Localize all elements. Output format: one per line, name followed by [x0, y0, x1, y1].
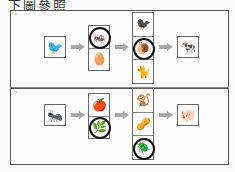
arrow-right-icon: [159, 111, 173, 119]
apple-glyph: 🍎: [92, 98, 107, 112]
cow-glyph: 🐄: [180, 40, 196, 55]
arrow-right-icon: [159, 43, 173, 51]
plant-glyph: 🌿: [92, 120, 107, 134]
grasshopper-icon: 🦗: [89, 26, 109, 49]
snail-icon: 🐌: [133, 37, 153, 61]
nuts-icon: 🥜: [133, 113, 153, 137]
beetle-glyph: 🪲: [136, 141, 151, 155]
diagram-panel-2: ② 🐜 🍎 🌿 🐒 🥜 🪲 🐖: [10, 88, 229, 165]
crow-glyph: 🐦‍⬛: [136, 17, 151, 31]
beetle-icon: 🪲: [133, 136, 153, 159]
level3-stack: 🐒 🥜 🪲: [132, 88, 154, 160]
snail-glyph: 🐌: [136, 41, 151, 55]
panel-label: ①: [14, 12, 18, 17]
sparrow-icon: 🐦: [44, 36, 66, 58]
monkey-glyph: 🐒: [136, 93, 151, 107]
pig-icon: 🐖: [177, 104, 199, 126]
sparrow-glyph: 🐦: [47, 40, 63, 55]
level2-stack: 🍎 🌿: [88, 93, 110, 139]
plant-sprout-icon: 🌿: [89, 117, 109, 139]
egg-glyph: 🥚: [92, 52, 107, 66]
monkey-icon: 🐒: [133, 89, 153, 113]
arrow-right-icon: [71, 111, 85, 119]
ant-icon: 🐜: [44, 104, 66, 126]
egg-icon: 🥚: [89, 49, 109, 71]
pig-glyph: 🐖: [180, 108, 196, 123]
arrow-right-icon: [115, 111, 129, 119]
grasshopper-glyph: 🦗: [92, 30, 107, 44]
level2-stack: 🦗 🥚: [88, 25, 110, 71]
ant-glyph: 🐜: [47, 108, 63, 123]
panel-label: ②: [14, 90, 18, 95]
arrow-right-icon: [115, 43, 129, 51]
cat-glyph: 🐈: [136, 65, 151, 79]
nuts-glyph: 🥜: [136, 117, 151, 131]
diagram-panel-1: ① 🐦 🦗 🥚 🐦‍⬛ 🐌 🐈 🐄: [10, 10, 229, 88]
arrow-right-icon: [71, 43, 85, 51]
cow-icon: 🐄: [177, 36, 199, 58]
level3-stack: 🐦‍⬛ 🐌 🐈: [132, 12, 154, 84]
apple-icon: 🍎: [89, 94, 109, 117]
crow-icon: 🐦‍⬛: [133, 13, 153, 37]
cat-icon: 🐈: [133, 60, 153, 83]
